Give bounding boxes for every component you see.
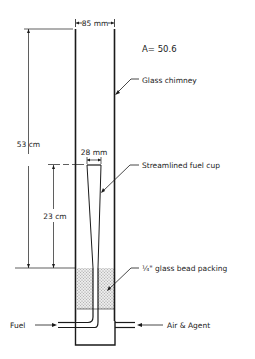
packing-label: ¼" glass bead packing <box>142 264 228 273</box>
burner-apparatus-diagram: 85 mm A= 50.6 Glass chimney 53 cm 23 cm … <box>0 0 255 359</box>
cup-width-arrow-right <box>98 159 101 162</box>
chimney-label: Glass chimney <box>142 76 197 85</box>
area-ratio-label: A= 50.6 <box>142 44 177 54</box>
height-total-arrow-top <box>27 29 30 33</box>
chimney-width-arrow-left <box>76 22 79 25</box>
height-cup-arrow-bottom <box>52 264 55 268</box>
base-chamber <box>76 321 116 345</box>
chimney-width-label: 85 mm <box>82 19 109 28</box>
cup-width-arrow-left <box>87 159 90 162</box>
fuel-cup-leader-line <box>102 165 139 192</box>
fuel-arrow-head <box>52 323 57 327</box>
height-total-label: 53 cm <box>17 140 40 149</box>
chimney-width-arrow-right <box>111 22 114 25</box>
air-arrow-head <box>137 323 142 327</box>
fuel-cup-leader-arrow <box>101 188 105 193</box>
cup-width-label: 28 mm <box>81 148 108 157</box>
air-inlet-label: Air & Agent <box>167 321 210 330</box>
fuel-inlet-label: Fuel <box>10 321 25 330</box>
fuel-tube-bend-inner <box>95 268 98 328</box>
fuel-cup-left-side <box>87 165 93 268</box>
height-cup-arrow-top <box>52 165 55 169</box>
glass-bead-packing-right <box>98 268 114 309</box>
glass-bead-packing-left <box>77 268 93 309</box>
height-total-arrow-bottom <box>27 264 30 268</box>
fuel-cup-label: Streamlined fuel cup <box>142 161 220 170</box>
chimney-leader-line <box>116 79 139 94</box>
height-cup-label: 23 cm <box>43 212 66 221</box>
fuel-cup-right-side <box>98 165 101 268</box>
